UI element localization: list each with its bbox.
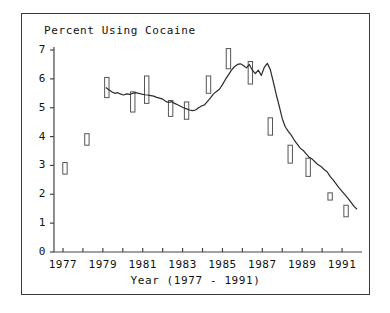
confidence-interval-box — [85, 134, 89, 146]
x-tick-label: 1987 — [245, 258, 279, 271]
y-tick-label: 3 — [32, 158, 46, 171]
y-tick-label: 2 — [32, 187, 46, 200]
confidence-interval-box — [63, 163, 67, 175]
confidence-interval-box — [145, 76, 149, 103]
x-axis-title: Year (1977 - 1991) — [21, 274, 370, 287]
x-tick-label: 1981 — [126, 258, 160, 271]
data-line-layer — [106, 63, 357, 209]
confidence-interval-box — [328, 193, 332, 200]
chart-screenshot: Percent Using Cocaine 012345671977197919… — [0, 0, 390, 313]
x-tick-label: 1977 — [46, 258, 80, 271]
error-boxes-layer — [63, 49, 348, 217]
confidence-interval-box — [268, 118, 272, 135]
confidence-interval-box — [105, 77, 109, 97]
confidence-interval-box — [206, 76, 210, 93]
y-tick-label: 1 — [32, 216, 46, 229]
confidence-interval-box — [226, 49, 230, 69]
confidence-interval-box — [131, 92, 135, 112]
x-tick-label: 1991 — [325, 258, 359, 271]
confidence-interval-box — [288, 145, 292, 163]
x-tick-label: 1983 — [166, 258, 200, 271]
y-tick-label: 7 — [32, 43, 46, 56]
x-tick-label: 1985 — [205, 258, 239, 271]
y-tick-label: 4 — [32, 130, 46, 143]
y-tick-label: 5 — [32, 101, 46, 114]
confidence-interval-box — [306, 158, 310, 176]
x-tick-label: 1989 — [285, 258, 319, 271]
confidence-interval-box — [184, 102, 188, 119]
y-tick-label: 6 — [32, 72, 46, 85]
x-tick-label: 1979 — [86, 258, 120, 271]
confidence-interval-box — [344, 205, 348, 217]
y-tick-label: 0 — [32, 245, 46, 258]
cocaine-trend-line — [106, 63, 357, 209]
